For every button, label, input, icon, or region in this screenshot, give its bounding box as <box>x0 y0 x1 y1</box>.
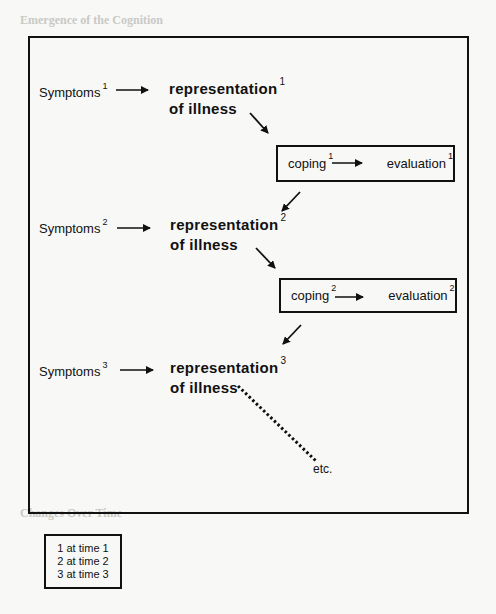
arrow-diagonal-icon <box>283 325 301 344</box>
arrow-diagonal-icon <box>256 248 275 268</box>
arrow-diagonal-icon <box>282 192 300 211</box>
dotted-continuation-line <box>238 386 316 461</box>
arrows-layer <box>0 0 496 614</box>
arrow-diagonal-icon <box>250 113 268 133</box>
